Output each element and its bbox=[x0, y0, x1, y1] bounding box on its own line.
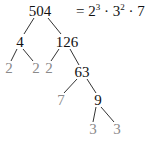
tree-node-3-prime: 3 bbox=[113, 122, 121, 137]
tree-edge bbox=[48, 18, 61, 34]
tree-node-504: 504 bbox=[29, 4, 52, 19]
prime-factorization-equation: = 23 · 32 · 7 bbox=[76, 4, 145, 19]
tree-node-2-prime: 2 bbox=[5, 61, 13, 76]
tree-edge bbox=[64, 79, 77, 93]
factor-tree-edges bbox=[0, 0, 146, 141]
factor-3: 32 bbox=[113, 3, 125, 19]
tree-node-4: 4 bbox=[16, 35, 24, 50]
tree-node-3-prime: 3 bbox=[89, 122, 97, 137]
equals-sign: = bbox=[76, 3, 84, 19]
dot-separator: · bbox=[104, 3, 109, 19]
tree-node-7-prime: 7 bbox=[57, 93, 65, 108]
tree-node-63: 63 bbox=[75, 65, 90, 80]
factor-2: 23 bbox=[88, 3, 100, 19]
tree-node-2-prime: 2 bbox=[32, 61, 40, 76]
tree-edge bbox=[24, 18, 34, 34]
tree-node-126: 126 bbox=[56, 35, 79, 50]
factor-7: 7 bbox=[137, 3, 145, 19]
tree-edge bbox=[101, 107, 114, 122]
dot-separator: · bbox=[128, 3, 133, 19]
tree-node-9: 9 bbox=[94, 93, 102, 108]
tree-node-2-prime: 2 bbox=[45, 61, 53, 76]
